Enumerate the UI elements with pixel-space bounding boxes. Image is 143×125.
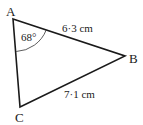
triangle-figure [0, 0, 143, 125]
vertex-label-c: C [15, 111, 24, 124]
side-bc-label: 7·1 cm [64, 89, 95, 100]
angle-a-label: 68° [21, 32, 36, 43]
vertex-label-a: A [6, 5, 15, 18]
vertex-label-b: B [129, 52, 138, 65]
side-ab-label: 6·3 cm [62, 23, 93, 34]
